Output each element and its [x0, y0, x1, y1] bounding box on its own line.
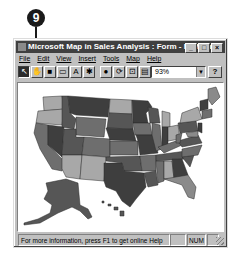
state-vermont-nh[interactable] — [200, 99, 208, 111]
state-arizona[interactable] — [62, 155, 82, 179]
add-text-tool-button[interactable]: A — [70, 66, 82, 78]
state-new-jersey[interactable] — [198, 123, 202, 133]
center-map-tool-button[interactable]: ■ — [44, 66, 56, 78]
status-cell-caps — [170, 234, 186, 246]
state-alaska[interactable] — [24, 179, 92, 225]
menu-tools[interactable]: Tools — [103, 54, 119, 64]
map-canvas[interactable] — [17, 82, 224, 232]
state-new-mexico[interactable] — [80, 155, 106, 181]
status-message: For more information, press F1 to get on… — [18, 234, 170, 246]
state-washington[interactable] — [43, 96, 64, 111]
state-north-carolina[interactable] — [182, 145, 202, 157]
state-wisconsin[interactable] — [148, 107, 160, 123]
close-button[interactable]: × — [211, 43, 223, 53]
map-labels-tool-button[interactable]: ▭ — [57, 66, 69, 78]
map-refresh-button[interactable]: ⊡ — [126, 66, 138, 78]
status-cell-num: NUM — [187, 234, 206, 246]
state-nebraska[interactable] — [106, 128, 136, 141]
redraw-map-button[interactable]: ⟳ — [113, 66, 125, 78]
state-new-york[interactable] — [180, 107, 202, 123]
state-new-england-south[interactable] — [202, 109, 212, 119]
state-michigan[interactable] — [162, 111, 170, 127]
menu-edit[interactable]: Edit — [37, 54, 49, 64]
zoom-value: 93% — [155, 68, 169, 75]
menu-file[interactable]: File — [19, 54, 30, 64]
state-hawaii[interactable] — [102, 201, 124, 216]
state-maine[interactable] — [208, 87, 220, 105]
msmap-window: Microsoft Map in Sales Analysis : Form -… — [13, 38, 228, 248]
menu-bar: File Edit View Insert Tools Map Help — [17, 54, 161, 64]
custom-pin-tool-button[interactable]: ✱ — [83, 66, 95, 78]
grabber-tool-button[interactable]: ✋ — [31, 66, 43, 78]
status-bar: For more information, press F1 to get on… — [17, 234, 224, 245]
resize-grip[interactable] — [216, 237, 224, 245]
title-bar[interactable]: Microsoft Map in Sales Analysis : Form -… — [16, 41, 225, 53]
state-florida[interactable] — [164, 175, 196, 199]
zoom-percentage-select[interactable]: 93% ▼ — [151, 66, 206, 78]
minimize-button[interactable]: _ — [185, 43, 197, 53]
display-entire-button[interactable]: ● — [100, 66, 112, 78]
state-louisiana[interactable] — [144, 171, 158, 187]
menu-help[interactable]: Help — [147, 54, 161, 64]
state-montana[interactable] — [68, 96, 110, 117]
menu-map[interactable]: Map — [126, 54, 140, 64]
context-help-button[interactable]: ? — [208, 66, 222, 78]
state-north-dakota[interactable] — [109, 99, 132, 114]
show-control-button[interactable]: ▤ — [139, 66, 151, 78]
state-wyoming[interactable] — [76, 117, 106, 137]
menu-view[interactable]: View — [56, 54, 71, 64]
state-arkansas[interactable] — [140, 155, 156, 171]
state-south-dakota[interactable] — [107, 113, 133, 129]
app-icon[interactable] — [18, 43, 26, 51]
menu-insert[interactable]: Insert — [78, 54, 96, 64]
select-tool-button[interactable]: ↖ — [18, 66, 30, 78]
us-map — [18, 83, 223, 232]
state-colorado[interactable] — [82, 137, 110, 157]
state-iowa[interactable] — [133, 123, 152, 135]
maximize-button[interactable]: □ — [198, 43, 210, 53]
state-oregon[interactable] — [36, 109, 64, 125]
toolbar: ↖ ✋ ■ ▭ A ✱ ● ⟳ ⊡ ▤ 93% ▼ ? — [17, 66, 224, 80]
state-kansas[interactable] — [110, 141, 138, 155]
step-callout-marker: 9 — [27, 9, 45, 27]
chevron-down-icon[interactable]: ▼ — [196, 67, 205, 77]
